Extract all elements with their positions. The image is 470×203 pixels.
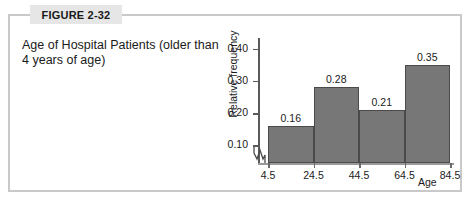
bar-value-label: 0.35 xyxy=(417,51,437,63)
bar xyxy=(314,87,360,163)
x-axis-line xyxy=(258,163,454,165)
x-axis-tick xyxy=(450,163,452,168)
figure-frame: FIGURE 2-32 Age of Hospital Patients (ol… xyxy=(0,0,470,203)
figure-number-badge: FIGURE 2-32 xyxy=(30,5,122,24)
x-axis-tick-label: 64.5 xyxy=(394,169,414,181)
bar-value-label: 0.28 xyxy=(326,73,346,85)
frame-border-top-right xyxy=(122,14,462,16)
y-axis-tick-label: 0.30 xyxy=(228,74,248,86)
bar-value-label: 0.21 xyxy=(372,96,392,108)
y-axis-tick-label: 0.40 xyxy=(228,42,248,54)
bar xyxy=(359,110,405,163)
x-axis-tick xyxy=(268,163,270,168)
bar xyxy=(268,126,314,163)
x-axis-tick-label: 4.5 xyxy=(261,169,276,181)
bar xyxy=(405,65,451,163)
x-axis-tick-label: 44.5 xyxy=(349,169,369,181)
x-axis-tick xyxy=(359,163,361,168)
plot-area: 0.100.200.300.40 4.524.544.564.584.5 0.1… xyxy=(258,38,454,163)
x-axis-tick-label: 24.5 xyxy=(303,169,323,181)
frame-border-bottom xyxy=(8,190,462,192)
y-axis-tick-label: 0.20 xyxy=(228,106,248,118)
y-axis-tick-label: 0.10 xyxy=(228,138,248,150)
x-axis-tick xyxy=(405,163,407,168)
figure-number-label: FIGURE 2-32 xyxy=(42,9,111,21)
y-axis-tick: 0.30 xyxy=(253,81,259,83)
y-axis-tick: 0.20 xyxy=(253,113,259,115)
bar-value-label: 0.16 xyxy=(281,112,301,124)
x-axis-tick xyxy=(314,163,316,168)
x-axis-label: Age xyxy=(418,176,437,188)
histogram-chart: Relative frequency 0.100.200.300.40 4.52… xyxy=(222,30,462,190)
axis-break-icon xyxy=(252,146,268,164)
figure-caption: Age of Hospital Patients (older than 4 y… xyxy=(22,38,222,68)
frame-border-left xyxy=(8,14,10,192)
y-axis-tick: 0.10 xyxy=(253,145,259,147)
y-axis-line xyxy=(258,38,260,163)
x-axis-tick-label: 84.5 xyxy=(440,169,460,181)
frame-border-top-left xyxy=(8,14,30,16)
y-axis-tick: 0.40 xyxy=(253,49,259,51)
